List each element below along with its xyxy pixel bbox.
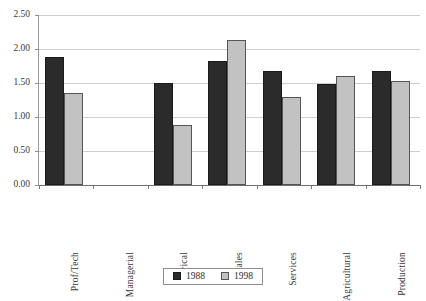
bar[interactable] [64,93,83,185]
legend-swatch-icon [173,272,181,280]
bars-layer [39,15,420,185]
y-axis-tick-label: 0.50 [13,146,30,156]
x-axis-category-label: Agricultural [342,252,352,301]
bar[interactable] [173,125,192,185]
y-axis-tick-label: 0.00 [13,180,30,190]
x-axis-category-label: Services [288,252,298,286]
y-axis-tick-label: 2.00 [13,44,30,54]
bar-group [366,15,420,185]
x-axis-tick [311,185,312,189]
y-axis: 0.000.501.001.502.002.50 [0,0,36,289]
bar-group [93,15,147,185]
bar-group [39,15,93,185]
y-axis-tick-label: 2.50 [13,10,30,20]
legend-entry[interactable]: 1988 [173,271,205,281]
x-axis-tick [366,185,367,189]
bar[interactable] [208,61,227,185]
x-axis-category-label: Production [397,252,407,296]
bar-group [202,15,256,185]
legend-label: 1988 [186,271,205,281]
bar[interactable] [372,71,391,185]
bar[interactable] [282,97,301,185]
bar[interactable] [317,84,336,185]
bar[interactable] [227,40,246,185]
bar-group [148,15,202,185]
y-axis-tick-label: 1.50 [13,78,30,88]
y-axis-tick-label: 1.00 [13,112,30,122]
x-axis-tick [148,185,149,189]
x-axis: Prof/TechManagerialClericalSalesServices… [38,190,419,256]
bar[interactable] [263,71,282,185]
plot-area [38,15,420,186]
x-axis-category-label: Managerial [125,252,135,297]
legend-entry[interactable]: 1998 [221,271,253,281]
bar-group [257,15,311,185]
legend-label: 1998 [234,271,253,281]
bar[interactable] [336,76,355,185]
x-axis-tick [257,185,258,189]
x-axis-tick [39,185,40,189]
x-axis-tick [420,185,421,189]
chart-title [0,0,426,2]
legend-swatch-icon [221,272,229,280]
bar[interactable] [154,83,173,185]
chart-legend: 19881998 [163,268,263,285]
bar[interactable] [391,81,410,185]
bar-group [311,15,365,185]
x-axis-tick [93,185,94,189]
bar[interactable] [45,57,64,185]
x-axis-category-label: Prof/Tech [70,252,80,291]
x-axis-tick [202,185,203,189]
